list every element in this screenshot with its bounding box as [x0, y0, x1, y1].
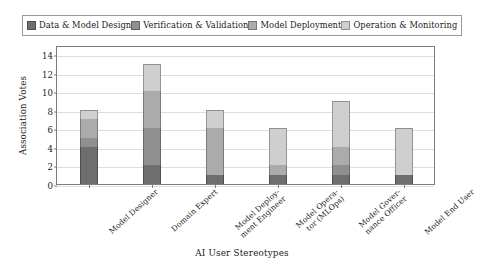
bar-group[interactable]: [395, 45, 413, 184]
legend-swatch-verification-validation: [131, 21, 140, 30]
y-tick-label-10: 10: [42, 89, 53, 98]
x-axis-tick-labels: Model DesignerDomain ExpertModel Deploy-…: [56, 186, 435, 244]
y-tick-label-6: 6: [48, 126, 53, 135]
bar-segment[interactable]: [80, 110, 98, 119]
x-tick-label: Model Designer: [108, 188, 160, 236]
bar-segment[interactable]: [143, 64, 161, 92]
chart-figure: Data & Model Design Verification & Valid…: [0, 0, 484, 272]
legend-label-verification-validation: Verification & Validation: [143, 21, 248, 29]
legend-item-data-model-design: Data & Model Design: [27, 21, 131, 30]
x-tick-label: Model Deploy- ment Engineer: [233, 188, 288, 240]
legend-item-verification-validation: Verification & Validation: [131, 21, 248, 30]
bar-segment[interactable]: [206, 110, 224, 129]
bar-segment[interactable]: [332, 165, 350, 174]
bars-layer: [57, 47, 434, 184]
x-axis-title: AI User Stereotypes: [0, 248, 484, 258]
legend-swatch-model-deployment: [248, 21, 257, 30]
bar-segment[interactable]: [332, 101, 350, 147]
y-axis-title: Association Votes: [16, 46, 30, 185]
bar-group[interactable]: [206, 45, 224, 184]
bar-segment[interactable]: [206, 128, 224, 174]
y-tick-label-14: 14: [42, 52, 53, 61]
chart-legend: Data & Model Design Verification & Valid…: [22, 15, 462, 36]
plot-area: 02468101214: [56, 46, 435, 185]
bar-segment[interactable]: [143, 128, 161, 165]
bar-segment[interactable]: [332, 175, 350, 184]
bar-group[interactable]: [143, 45, 161, 184]
y-tick-label-4: 4: [48, 145, 53, 154]
x-tick-label: Model Opera- tor (MLOps): [295, 188, 347, 237]
bar-segment[interactable]: [332, 147, 350, 166]
bar-segment[interactable]: [80, 119, 98, 138]
legend-label-model-deployment: Model Deployment: [260, 21, 341, 29]
legend-label-data-model-design: Data & Model Design: [39, 21, 131, 29]
y-tick-label-12: 12: [42, 71, 53, 80]
bar-segment[interactable]: [80, 147, 98, 184]
bar-segment[interactable]: [143, 165, 161, 184]
bar-segment[interactable]: [395, 128, 413, 174]
x-tick-label: Model Gover- nance Officer: [358, 188, 409, 237]
bar-segment[interactable]: [206, 175, 224, 184]
y-tick-label-0: 0: [48, 182, 53, 191]
bar-group[interactable]: [269, 45, 287, 184]
x-tick-label: Domain Expert: [170, 188, 220, 234]
legend-label-operation-monitoring: Operation & Monitoring: [353, 21, 457, 29]
legend-item-operation-monitoring: Operation & Monitoring: [341, 21, 457, 30]
legend-swatch-operation-monitoring: [341, 21, 350, 30]
legend-swatch-data-model-design: [27, 21, 36, 30]
bar-group[interactable]: [80, 45, 98, 184]
y-tick-label-2: 2: [48, 163, 53, 172]
bar-segment[interactable]: [269, 165, 287, 174]
bar-segment[interactable]: [143, 91, 161, 128]
legend-item-model-deployment: Model Deployment: [248, 21, 341, 30]
bar-segment[interactable]: [395, 175, 413, 184]
bar-group[interactable]: [332, 45, 350, 184]
x-tick-label: Model End User: [424, 188, 477, 237]
bar-segment[interactable]: [269, 175, 287, 184]
bar-segment[interactable]: [269, 128, 287, 165]
bar-segment[interactable]: [80, 138, 98, 147]
y-tick-label-8: 8: [48, 108, 53, 117]
